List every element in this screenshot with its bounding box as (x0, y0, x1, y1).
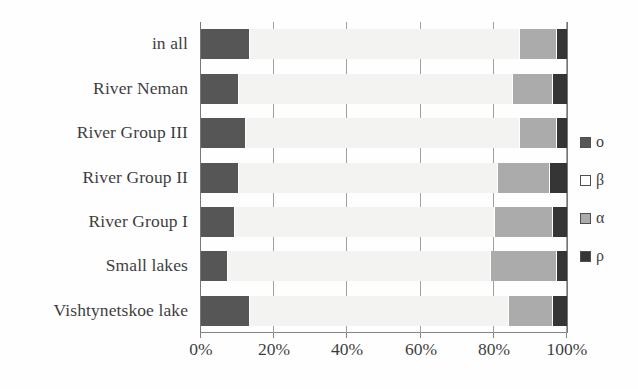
bar-segment-o (201, 296, 249, 326)
legend-item-label: α (596, 210, 604, 226)
legend-item-beta[interactable]: β (580, 172, 604, 188)
bar-segment-rho (556, 118, 567, 148)
category-label-in-all: in all (152, 35, 188, 53)
bar-segment-beta (227, 251, 490, 281)
bar-segment-o (201, 251, 227, 281)
dark-gray-square-icon (580, 137, 591, 148)
bar-segment-beta (238, 163, 497, 193)
legend-item-label: o (596, 134, 604, 150)
category-label-small-lakes: Small lakes (106, 257, 188, 275)
bar-segment-alpha (519, 118, 556, 148)
bar-segment-beta (234, 207, 494, 237)
x-axis-tick-labels: 0%20%40%60%80%100% (200, 341, 568, 367)
category-label-river-neman: River Neman (93, 80, 188, 98)
bar-row (201, 29, 567, 59)
black-square-icon (580, 251, 591, 262)
category-label-river-group-iii: River Group III (77, 124, 188, 142)
x-tick-20pct (273, 333, 274, 338)
gray-square-icon (580, 213, 591, 224)
bar-segment-alpha (508, 296, 552, 326)
stacked-bar-chart: in all River Neman River Group III River… (0, 0, 638, 389)
category-label-river-group-i: River Group I (89, 213, 188, 231)
category-label-river-group-ii: River Group II (83, 169, 188, 187)
bar-segment-o (201, 29, 249, 59)
x-axis-line (200, 332, 568, 333)
x-tick-60pct (420, 333, 421, 338)
white-square-icon (580, 175, 591, 186)
legend-item-label: β (596, 172, 604, 188)
x-tick-label-80pct: 80% (478, 341, 510, 359)
bar-segment-alpha (497, 163, 549, 193)
bar-segment-beta (238, 74, 512, 104)
bar-segment-o (201, 207, 234, 237)
x-tick-0pct (200, 333, 201, 338)
bar-row (201, 207, 567, 237)
legend-item-o[interactable]: o (580, 134, 604, 150)
plot-right-border (567, 22, 568, 333)
x-tick-80pct (493, 333, 494, 338)
legend-item-label: ρ (596, 248, 604, 264)
bar-segment-rho (556, 29, 567, 59)
x-tick-label-20pct: 20% (258, 341, 290, 359)
bar-segment-rho (552, 296, 567, 326)
x-tick-label-40pct: 40% (331, 341, 363, 359)
x-tick-label-60pct: 60% (405, 341, 437, 359)
x-tick-label-0pct: 0% (189, 341, 212, 359)
bar-segment-alpha (519, 29, 556, 59)
bar-row (201, 251, 567, 281)
legend-item-alpha[interactable]: α (580, 210, 604, 226)
bar-segment-rho (549, 163, 567, 193)
category-label-vishtynetskoe-lake: Vishtynetskoe lake (54, 302, 188, 320)
bar-segment-alpha (490, 251, 556, 281)
bar-segment-o (201, 163, 238, 193)
bar-segment-o (201, 118, 245, 148)
x-tick-label-100pct: 100% (547, 341, 588, 359)
bar-segment-beta (249, 296, 508, 326)
bar-segment-beta (245, 118, 519, 148)
bar-segment-rho (552, 74, 567, 104)
bar-segment-alpha (512, 74, 552, 104)
bar-segment-o (201, 74, 238, 104)
bar-row (201, 296, 567, 326)
bar-segment-alpha (494, 207, 552, 237)
bar-row (201, 163, 567, 193)
legend-item-rho[interactable]: ρ (580, 248, 604, 264)
category-axis-labels: in all River Neman River Group III River… (0, 22, 194, 332)
bar-segment-rho (556, 251, 567, 281)
legend: oβαρ (580, 134, 636, 252)
x-tick-40pct (346, 333, 347, 338)
x-tick-100pct (566, 333, 567, 338)
bar-row (201, 74, 567, 104)
bar-segment-beta (249, 29, 519, 59)
bar-segment-rho (552, 207, 567, 237)
plot-area (200, 22, 568, 333)
bar-row (201, 118, 567, 148)
